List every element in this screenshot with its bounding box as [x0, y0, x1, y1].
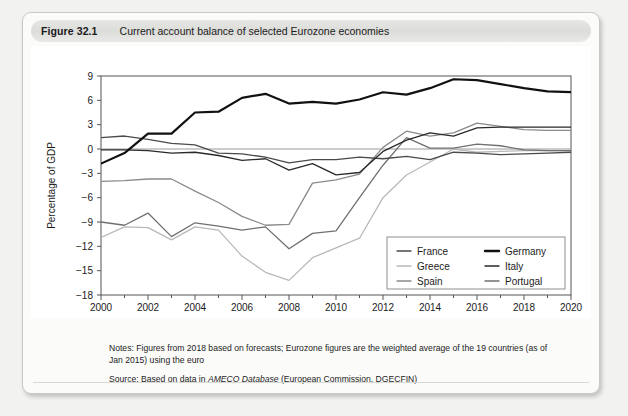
y-axis-tick-label: −3	[82, 168, 94, 179]
x-axis-tick-label: 2014	[419, 302, 442, 313]
legend-label-greece: Greece	[417, 261, 450, 272]
notes-block: Notes: Figures from 2018 based on foreca…	[109, 343, 559, 386]
x-axis-tick-label: 2002	[137, 302, 160, 313]
page-background: Figure 32.1 Current account balance of s…	[0, 0, 628, 416]
legend-label-portugal: Portugal	[505, 276, 542, 287]
x-axis-tick-label: 2010	[325, 302, 348, 313]
y-axis-tick-label: −18	[76, 290, 93, 301]
x-axis-tick-label: 2012	[372, 302, 395, 313]
x-axis-tick-label: 2020	[560, 302, 583, 313]
figure-number-label: Figure 32.1	[41, 25, 98, 37]
figure-card: Figure 32.1 Current account balance of s…	[22, 12, 600, 394]
legend-label-germany: Germany	[505, 246, 546, 257]
legend-label-france: France	[417, 246, 449, 257]
x-axis-tick-label: 2004	[184, 302, 207, 313]
y-axis-tick-label: 6	[87, 95, 93, 106]
figure-source-text: Source: Based on data in AMECO Database …	[109, 374, 559, 386]
y-axis-tick-label: −15	[76, 265, 93, 276]
line-chart: 9630−3−6−9−12−15−18200020022004200620082…	[31, 46, 593, 318]
y-axis-tick-label: −9	[82, 217, 94, 228]
y-axis-tick-label: 3	[87, 119, 93, 130]
x-axis-tick-label: 2008	[278, 302, 301, 313]
y-axis-tick-label: 9	[87, 71, 93, 82]
x-axis-tick-label: 2016	[466, 302, 489, 313]
chart-plot-area: 9630−3−6−9−12−15−18200020022004200620082…	[31, 46, 591, 318]
figure-notes-text: Notes: Figures from 2018 based on foreca…	[109, 343, 559, 366]
y-axis-tick-label: −6	[82, 192, 94, 203]
x-axis-tick-label: 2000	[90, 302, 113, 313]
y-axis-tick-label: −12	[76, 241, 93, 252]
figure-header-bar: Figure 32.1 Current account balance of s…	[31, 20, 591, 42]
legend-label-italy: Italy	[505, 261, 523, 272]
card-footer-divider	[33, 382, 589, 383]
legend-label-spain: Spain	[417, 276, 443, 287]
x-axis-tick-label: 2018	[513, 302, 536, 313]
figure-title: Current account balance of selected Euro…	[120, 25, 390, 37]
y-axis-title: Percentage of GDP	[46, 142, 57, 229]
y-axis-tick-label: 0	[87, 144, 93, 155]
x-axis-tick-label: 2006	[231, 302, 254, 313]
